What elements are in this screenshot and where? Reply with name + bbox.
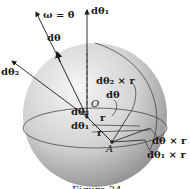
r-upper-label: r: [100, 112, 106, 123]
r-lower-label: r: [97, 127, 103, 138]
figure-caption: Figure 34: [72, 184, 122, 189]
dtheta1-cross-r-label: dθ₁ × r: [147, 149, 186, 160]
dtheta-cross-r-label: dθ × r: [152, 135, 187, 146]
dtheta1-label: dθ₁: [91, 5, 109, 16]
dtheta-label: dθ: [47, 32, 61, 43]
small-dtheta-label: dθ: [106, 89, 120, 100]
dtheta2-label: dθ₂: [1, 66, 19, 77]
origin-label: O: [91, 98, 99, 109]
rotation-sphere-diagram: ω = θ̇ dθ dθ₁ dθ₂ O A dθ₂ × r dθ dθ₂ dθ₁…: [0, 0, 190, 189]
small-dtheta1-label: dθ₁: [71, 120, 89, 131]
omega-label: ω = θ̇: [43, 9, 75, 20]
point-a-label: A: [105, 143, 113, 154]
dtheta2-cross-r-label: dθ₂ × r: [96, 75, 135, 86]
sphere: [23, 43, 167, 187]
small-dtheta2-label: dθ₂: [71, 106, 89, 117]
